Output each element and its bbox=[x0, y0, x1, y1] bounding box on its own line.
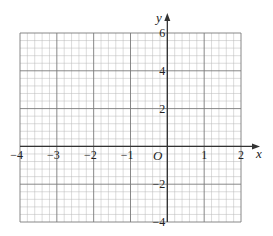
x-tick-label: 2 bbox=[238, 148, 244, 162]
x-tick-label: 1 bbox=[201, 148, 207, 162]
y-tick-label: 4 bbox=[159, 64, 165, 78]
x-tick-label: −1 bbox=[121, 148, 134, 162]
x-axis-label: x bbox=[255, 146, 262, 161]
major-grid-lines bbox=[20, 33, 241, 222]
axes bbox=[20, 13, 260, 222]
y-tick-label: 6 bbox=[159, 26, 165, 40]
y-tick-label: −2 bbox=[153, 177, 166, 191]
origin-label: O bbox=[153, 148, 163, 163]
y-axis-label: y bbox=[154, 10, 162, 25]
y-tick-label: 2 bbox=[159, 102, 165, 116]
coordinate-grid: −4−3−2−112642−2−4 x y O bbox=[0, 0, 273, 236]
tick-labels: −4−3−2−112642−2−4 bbox=[10, 26, 244, 229]
x-tick-label: −2 bbox=[84, 148, 97, 162]
x-tick-label: −4 bbox=[10, 148, 23, 162]
x-tick-label: −3 bbox=[47, 148, 60, 162]
y-axis-arrow-icon bbox=[164, 13, 170, 21]
y-tick-label: −4 bbox=[153, 215, 166, 229]
